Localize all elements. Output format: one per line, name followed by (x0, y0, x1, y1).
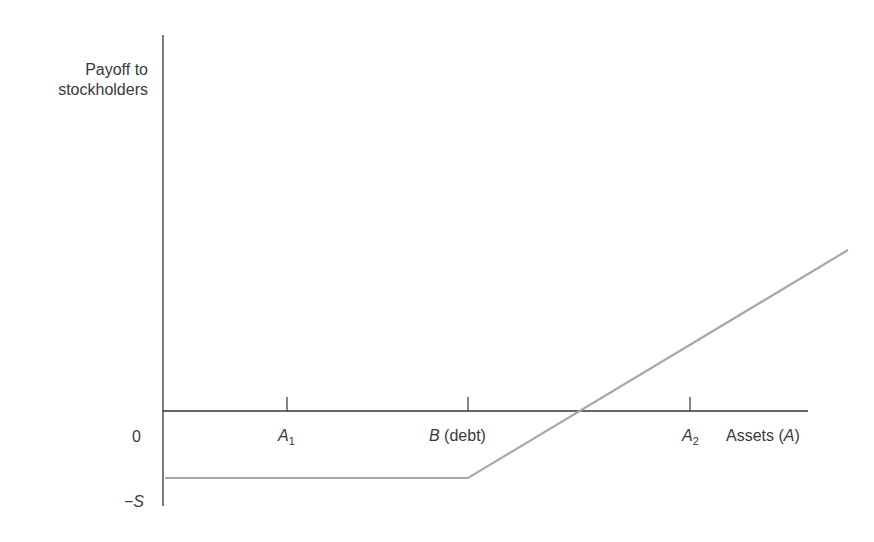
y-axis-label-line2: stockholders (58, 80, 148, 100)
x-axis-label-var: A (784, 427, 795, 444)
tick-label-b: B (debt) (429, 427, 486, 445)
origin-label: 0 (132, 428, 141, 446)
x-axis-label-close: ) (794, 427, 799, 444)
x-axis-label: Assets (A) (726, 427, 800, 445)
minus-sign: − (124, 493, 133, 510)
neg-s-label: −S (124, 493, 144, 511)
b-var: B (429, 427, 440, 444)
x-axis-label-text: Assets ( (726, 427, 784, 444)
a2-sub: 2 (693, 435, 699, 447)
y-axis-label: Payoff to stockholders (58, 60, 148, 100)
tick-label-a1: A1 (278, 427, 295, 447)
tick-label-a2: A2 (682, 427, 699, 447)
a1-var: A (278, 427, 289, 444)
s-var: S (133, 493, 144, 510)
a1-sub: 1 (289, 435, 295, 447)
b-rest: (debt) (440, 427, 486, 444)
a2-var: A (682, 427, 693, 444)
y-axis-label-line1: Payoff to (58, 60, 148, 80)
